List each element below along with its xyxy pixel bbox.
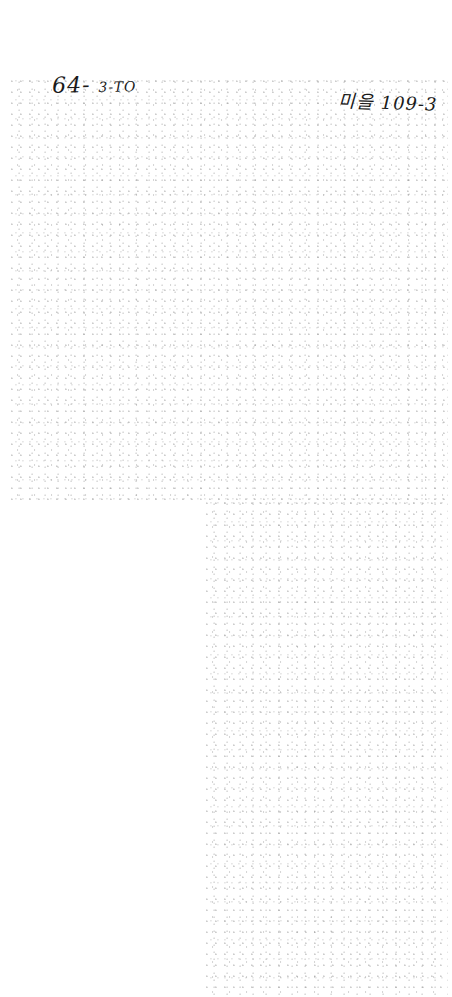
handwritten-annotation-left: 64- 3-TO (52, 71, 137, 97)
scan-noise-region-top (10, 78, 448, 500)
scan-noise-region-bottom (205, 500, 448, 995)
annotation-left-suffix: 3-TO (98, 78, 136, 95)
handwritten-annotation-right: 미을 109-3 (338, 86, 438, 115)
scanned-page: 64- 3-TO 미을 109-3 (0, 0, 452, 997)
annotation-left-main: 64- (52, 72, 91, 98)
